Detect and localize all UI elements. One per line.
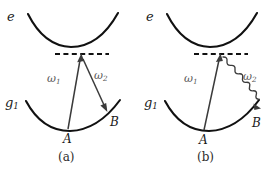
omega1-label-a: ω1 [47, 73, 61, 85]
ground-state-label-sub-b: 1 [152, 101, 157, 111]
omega2-label-sub-b: 2 [252, 75, 257, 84]
excited-state-curve-b [167, 13, 257, 47]
omega1-label-sub-a: 1 [56, 77, 61, 86]
panel-a-drawing [0, 0, 139, 174]
excited-state-label-b: e [146, 10, 154, 23]
ground-state-label-sub-a: 1 [13, 101, 18, 111]
ground-state-curve-b [165, 100, 259, 131]
omega2-label-text-b: ω [243, 70, 252, 83]
panel-a: e g1 ω1 ω2 A B (a) [0, 0, 139, 174]
omega1-label-text-a: ω [47, 72, 56, 85]
omega1-arrow-line-b [204, 60, 219, 130]
caption-a: (a) [58, 150, 75, 164]
omega2-arrowhead-a [100, 103, 107, 112]
omega2-label-a: ω2 [94, 70, 108, 82]
point-label-a-B: B [110, 116, 119, 128]
caption-b: (b) [197, 150, 214, 164]
excited-state-curve-a [28, 13, 118, 47]
point-label-a-A: A [63, 133, 72, 145]
excited-state-label-a: e [7, 10, 15, 23]
omega1-label-sub-b: 1 [193, 77, 198, 86]
panel-b: e g1 ω1 ω2 A B (b) [139, 0, 278, 174]
omega2-label-text-a: ω [94, 69, 103, 82]
panel-b-drawing [139, 0, 278, 174]
omega1-arrow-line-a [68, 60, 80, 129]
omega2-arrowhead-b [254, 103, 261, 110]
omega2-label-sub-a: 2 [103, 74, 108, 83]
physics-energy-level-figure: e g1 ω1 ω2 A B (a) e [0, 0, 278, 174]
ground-state-label-a: g1 [5, 96, 19, 111]
omega1-label-text-b: ω [184, 72, 193, 85]
point-label-b-A: A [199, 134, 208, 146]
ground-state-label-b: g1 [144, 96, 158, 111]
omega1-label-b: ω1 [184, 73, 198, 85]
point-label-b-B: B [252, 117, 261, 129]
omega2-label-b: ω2 [243, 71, 257, 83]
